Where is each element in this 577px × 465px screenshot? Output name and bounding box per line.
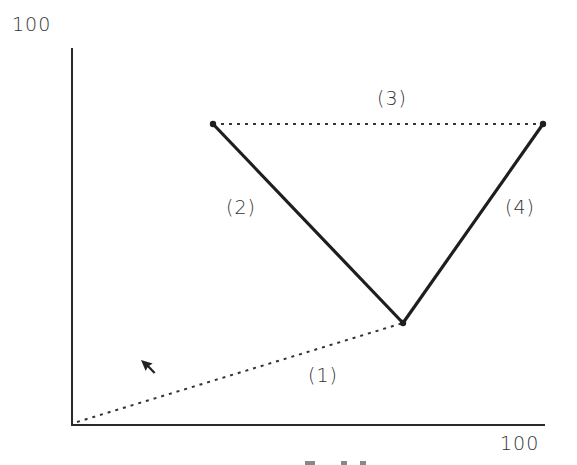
path-diagram (0, 0, 577, 465)
clipped-caption-fragment (305, 461, 315, 465)
segment-2-label: (2) (226, 196, 256, 218)
segment-4-label: (4) (505, 196, 535, 218)
segment-1-dotted (77, 323, 403, 422)
vertex-top-left (210, 121, 216, 127)
y-axis-max-label: 100 (12, 13, 51, 35)
segment-2-solid (213, 124, 403, 323)
arrow-cursor-icon (141, 357, 156, 376)
x-axis-max-label: 100 (500, 432, 539, 454)
segment-3-label: (3) (377, 87, 407, 109)
segment-4-solid (403, 124, 543, 323)
vertex-top-right (540, 121, 546, 127)
segment-1-label: (1) (308, 364, 338, 386)
clipped-caption-fragment (341, 461, 347, 465)
clipped-caption-fragment (360, 461, 366, 465)
vertex-bottom (400, 320, 406, 326)
